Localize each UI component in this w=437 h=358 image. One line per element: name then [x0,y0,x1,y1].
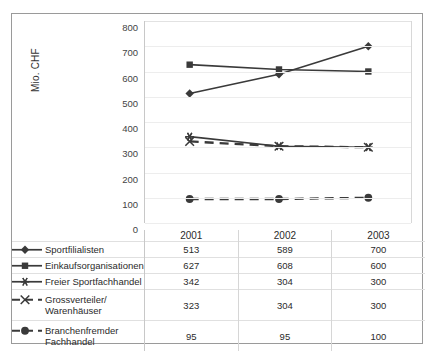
gridline [145,97,411,98]
gridline [145,198,411,199]
y-axis-tick-label: 800 [98,23,138,33]
table-cell-value: 323 [145,290,239,321]
y-axis-tick-label: 400 [98,124,138,134]
legend-swatch-svg [12,244,42,256]
legend-entry: Branchenfremder Fachhandel [12,325,144,348]
legend-item-3[interactable]: Grossverteiler/ Warenhäuser [12,290,145,321]
gridline [145,72,411,73]
table-row: Einkaufsorganisationen627608600 [12,258,425,274]
table-cell-value: 342 [145,274,239,290]
legend-marker-icon [12,260,42,272]
table-cell-value: 100 [332,321,425,352]
table-cell-value: 300 [332,290,425,321]
legend-label: Branchenfremder Fachhandel [45,325,118,348]
gridline [145,147,411,148]
table-row: Branchenfremder Fachhandel9595100 [12,321,425,352]
data-table-body: 200120022003Sportfilialisten513589700Ein… [12,230,425,351]
gridline [145,46,411,47]
table-header-corner [12,230,145,242]
legend-entry: Grossverteiler/ Warenhäuser [12,294,144,317]
table-cell-value: 627 [145,258,239,274]
legend-swatch-svg [12,260,42,272]
legend-label: Einkaufsorganisationen [45,260,144,272]
legend-entry: Einkaufsorganisationen [12,260,144,272]
table-header-year: 2001 [145,230,239,242]
legend-entry: Sportfilialisten [12,244,144,256]
y-axis-tick-label: 200 [98,175,138,185]
data-point-marker-circle [21,326,29,334]
table-row: Grossverteiler/ Warenhäuser323304300 [12,290,425,321]
plot-area [144,21,412,223]
legend-entry: Freier Sportfachhandel [12,276,144,288]
y-axis-tick-labels: 8007006005004003002001000 [90,21,138,223]
data-point-marker-star [21,278,30,285]
legend-label: Grossverteiler/ Warenhäuser [45,294,107,317]
table-header-row: 200120022003 [12,230,425,242]
y-axis-tick-label: 600 [98,74,138,84]
gridline [145,122,411,123]
chart-figure: Mio. CHF 8007006005004003002001000 20012… [11,13,423,344]
data-table: 200120022003Sportfilialisten513589700Ein… [12,230,425,351]
legend-swatch-svg [12,276,42,288]
table-header-year: 2002 [238,230,332,242]
table-cell-value: 95 [238,321,332,352]
legend-item-2[interactable]: Freier Sportfachhandel [12,274,145,290]
legend-marker-icon [12,294,42,306]
y-axis-tick-label: 700 [98,49,138,59]
table-cell-value: 95 [145,321,239,352]
table-cell-value: 608 [238,258,332,274]
data-point-marker-circle [186,195,194,203]
legend-item-1[interactable]: Einkaufsorganisationen [12,258,145,274]
table-cell-value: 300 [332,274,425,290]
table-row: Freier Sportfachhandel342304300 [12,274,425,290]
data-point-marker-circle [275,195,283,203]
data-point-marker-diamond [21,245,29,253]
y-axis-tick-label: 300 [98,150,138,160]
gridline [145,173,411,174]
legend-swatch-svg [12,294,42,306]
y-axis-tick-label: 500 [98,99,138,109]
table-cell-value: 304 [238,274,332,290]
legend-marker-icon [12,325,42,337]
legend-marker-icon [12,244,42,256]
table-cell-value: 700 [332,242,425,258]
legend-swatch-svg [12,325,42,337]
legend-item-4[interactable]: Branchenfremder Fachhandel [12,321,145,352]
gridline [145,21,411,22]
legend-label: Freier Sportfachhandel [45,276,142,288]
gridline [145,223,411,224]
legend-label: Sportfilialisten [45,244,104,256]
y-axis-title: Mio. CHF [30,48,41,92]
table-row: Sportfilialisten513589700 [12,242,425,258]
table-cell-value: 304 [238,290,332,321]
table-header-year: 2003 [332,230,425,242]
legend-marker-icon [12,276,42,288]
table-cell-value: 589 [238,242,332,258]
y-axis-tick-label: 100 [98,200,138,210]
data-point-marker-square [22,262,28,268]
table-cell-value: 600 [332,258,425,274]
plot-region: Mio. CHF 8007006005004003002001000 [12,14,422,230]
table-cell-value: 513 [145,242,239,258]
legend-item-0[interactable]: Sportfilialisten [12,242,145,258]
data-point-marker-square [186,61,192,67]
